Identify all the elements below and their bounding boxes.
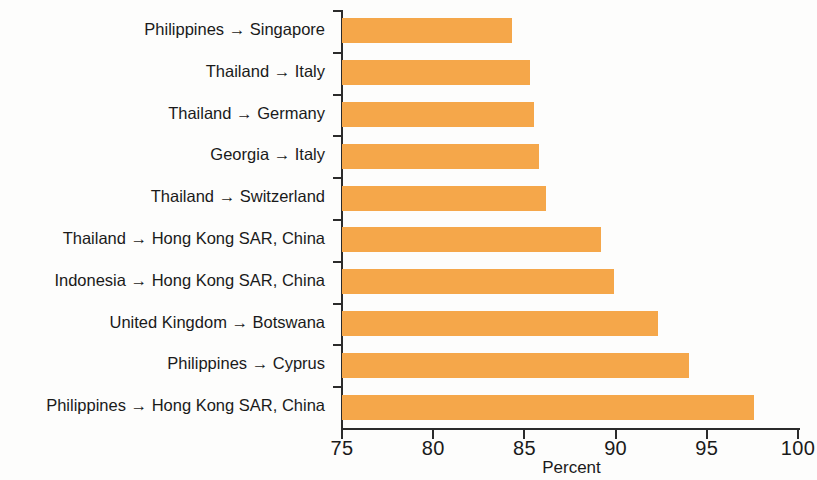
plot-area — [342, 10, 798, 428]
bar — [342, 186, 546, 211]
category-label: Indonesia → Hong Kong SAR, China — [54, 271, 325, 290]
category-label-column: Philippines → SingaporeThailand → ItalyT… — [0, 10, 333, 428]
bar — [342, 18, 512, 43]
x-axis-tick-label: 95 — [695, 437, 718, 460]
y-axis-tick — [333, 219, 342, 221]
bar — [342, 102, 534, 127]
x-axis-tick-label: 90 — [604, 437, 627, 460]
bar — [342, 269, 614, 294]
x-axis-tick-label: 85 — [513, 437, 536, 460]
x-axis-line — [341, 428, 800, 430]
bar — [342, 60, 530, 85]
category-label: Thailand → Hong Kong SAR, China — [63, 229, 325, 248]
y-axis-tick — [333, 261, 342, 263]
bar — [342, 227, 601, 252]
y-axis-tick — [333, 10, 342, 12]
category-label: Thailand → Italy — [206, 62, 325, 81]
x-axis-tick-label: 80 — [422, 437, 445, 460]
bar — [342, 353, 689, 378]
y-axis-tick — [333, 177, 342, 179]
y-axis-tick — [333, 94, 342, 96]
bar — [342, 311, 658, 336]
x-axis-tick-label: 100 — [781, 437, 815, 460]
category-label: Philippines → Cyprus — [167, 354, 325, 373]
x-axis-title-text: Percent — [542, 458, 601, 477]
category-label: Thailand → Germany — [168, 104, 325, 123]
category-label: United Kingdom → Botswana — [109, 313, 325, 332]
x-axis-title: Percent — [0, 458, 817, 478]
y-axis-tick — [333, 135, 342, 137]
category-label: Georgia → Italy — [210, 145, 325, 164]
y-axis-tick — [333, 344, 342, 346]
category-label: Philippines → Singapore — [144, 20, 325, 39]
category-label: Thailand → Switzerland — [151, 187, 325, 206]
x-axis-tick-label: 75 — [331, 437, 354, 460]
bar-chart: Philippines → SingaporeThailand → ItalyT… — [0, 0, 817, 480]
y-axis-tick — [333, 303, 342, 305]
y-axis-tick — [333, 386, 342, 388]
y-axis-tick — [333, 52, 342, 54]
bar — [342, 395, 754, 420]
category-label: Philippines → Hong Kong SAR, China — [46, 396, 325, 415]
bar — [342, 144, 539, 169]
